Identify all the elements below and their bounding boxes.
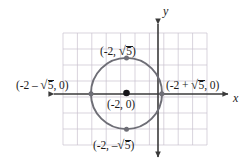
label-top-point: (-2, √5): [100, 44, 136, 58]
radical-right: √5: [191, 78, 204, 92]
label-right-point: (-2 + √5, 0): [166, 78, 219, 92]
radical-bottom: √5: [117, 138, 130, 152]
label-top-point-prefix: (-2,: [100, 45, 119, 57]
label-bottom-point-suffix: ): [131, 139, 135, 151]
figure-canvas: y x (-2, √5) (-2 – √5, 0) (-2 + √5, 0) (…: [0, 0, 251, 166]
radicand-bottom: 5: [124, 140, 130, 152]
label-bottom-point-prefix: (-2, –: [93, 139, 117, 151]
radicand-right: 5: [198, 80, 204, 92]
label-left-point-suffix: , 0): [54, 79, 69, 91]
label-left-point: (-2 – √5, 0): [16, 78, 68, 92]
marker-bottom-point: [124, 127, 129, 132]
radicand-left: 5: [47, 80, 53, 92]
y-axis-label: y: [163, 5, 168, 17]
radicand-top: 5: [126, 46, 132, 58]
marker-left-point: [89, 91, 94, 96]
label-center-point: (-2, 0): [107, 99, 135, 111]
x-axis-label: x: [233, 92, 238, 104]
label-left-point-prefix: (-2 –: [16, 79, 40, 91]
radical-top: √5: [119, 44, 132, 58]
label-top-point-suffix: ): [132, 45, 136, 57]
label-right-point-suffix: , 0): [204, 79, 219, 91]
label-bottom-point: (-2, –√5): [93, 138, 134, 152]
marker-right-point: [159, 91, 164, 96]
radical-left: √5: [40, 78, 53, 92]
marker-center-point: [123, 90, 130, 97]
label-right-point-prefix: (-2 +: [166, 79, 191, 91]
